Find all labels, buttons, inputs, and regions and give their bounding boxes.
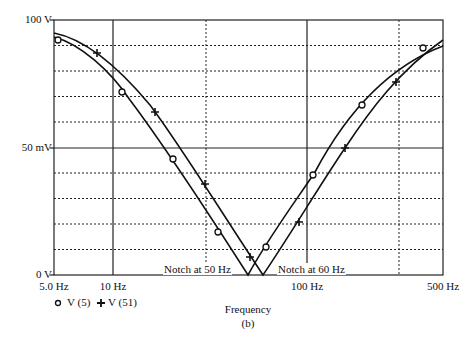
annotation-notch-60: Notch at 60 Hz xyxy=(277,263,346,275)
x-tick-500hz: 500 Hz xyxy=(427,280,459,292)
figure-caption: (b) xyxy=(242,317,255,329)
x-tick-5hz: 5.0 Hz xyxy=(39,280,68,292)
series-v5-markers xyxy=(55,37,426,250)
legend-v51-label: V (51) xyxy=(108,296,137,308)
y-tick-100v: 100 V xyxy=(25,13,52,25)
x-tick-10hz: 10 Hz xyxy=(100,280,127,292)
legend-plus-icon xyxy=(97,299,105,307)
x-axis-title: Frequency xyxy=(225,303,271,315)
chart-plot xyxy=(0,0,462,343)
y-tick-50mv: 50 mV xyxy=(22,141,52,153)
series-v51-line xyxy=(54,33,443,275)
x-tick-100hz: 100 Hz xyxy=(291,280,323,292)
y-tick-0v: 0 V xyxy=(36,268,52,280)
frame xyxy=(50,20,443,275)
legend-diamond-icon xyxy=(56,301,61,306)
legend-v5-label: V (5) xyxy=(67,296,90,308)
annotation-notch-50: Notch at 50 Hz xyxy=(163,263,232,275)
series-v5-line xyxy=(54,37,443,275)
series-v51-markers xyxy=(93,49,400,261)
